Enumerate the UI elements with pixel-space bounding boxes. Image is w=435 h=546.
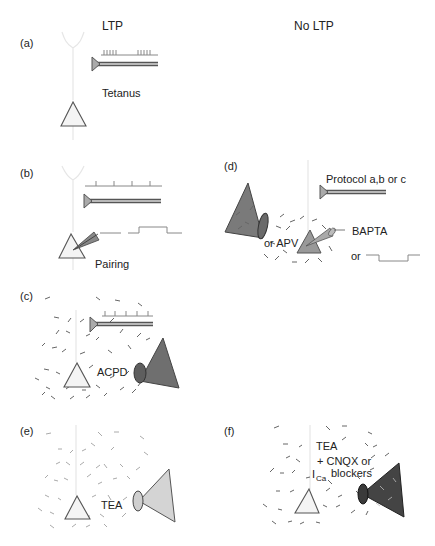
cnqx-label: + CNQX or — [317, 455, 371, 467]
svg-text:I: I — [312, 468, 315, 480]
stimulating-electrode-icon — [320, 185, 386, 199]
or-label: or — [351, 250, 361, 262]
hyperpolarization-step-trace — [366, 255, 420, 261]
tea-label: TEA — [316, 440, 338, 452]
panel-f-label: (f) — [224, 425, 234, 437]
panel-d: (d) or APV BAPTA or Protocol a,b or c — [224, 160, 420, 263]
stimulating-electrode-icon — [90, 317, 153, 332]
panel-b: (b) Pairing — [20, 166, 182, 270]
ltp-column-header: LTP — [102, 19, 123, 33]
pairing-label: Pairing — [95, 258, 129, 270]
panel-b-label: (b) — [20, 167, 33, 179]
tetanus-trace — [101, 50, 158, 55]
bapta-label: BAPTA — [352, 225, 388, 237]
panel-f: (f) TEA + CNQX or I Ca blockers — [224, 425, 404, 524]
neuron-soma-icon — [65, 496, 90, 519]
panel-a-label: (a) — [20, 37, 33, 49]
panel-d-label: (d) — [224, 160, 237, 172]
tea-label: TEA — [101, 499, 123, 511]
neuron-soma-icon — [64, 363, 90, 387]
acpd-label: ACPD — [97, 366, 128, 378]
panel-a: (a) Tetanus — [20, 32, 158, 140]
drug-molecules — [38, 432, 148, 528]
drug-puffer-dark-icon — [134, 338, 179, 388]
neuron-soma-icon — [295, 489, 319, 513]
protocol-label: Protocol a,b or c — [326, 173, 407, 185]
drug-puffer-dark-icon — [225, 183, 270, 240]
low-frequency-trace — [85, 181, 162, 186]
ica-blockers-label: I Ca blockers — [312, 467, 372, 483]
svg-text:Ca: Ca — [316, 474, 327, 483]
neuron-soma-icon — [61, 102, 86, 126]
depolarization-step-trace — [100, 227, 182, 233]
panel-e: (e) TEA — [20, 425, 175, 528]
panel-e-label: (e) — [20, 425, 33, 437]
apv-label: or APV — [264, 237, 299, 249]
stimulating-electrode-icon — [84, 194, 161, 208]
stimulating-electrode-icon — [92, 57, 158, 71]
tetanus-label: Tetanus — [102, 87, 141, 99]
ltp-figure: LTP No LTP (a) Tetanus (b) — [0, 0, 435, 546]
tetanus-trace — [102, 311, 153, 316]
recording-pipette-icon — [73, 232, 99, 250]
no-ltp-column-header: No LTP — [294, 19, 334, 33]
svg-text:blockers: blockers — [331, 467, 372, 479]
panel-c: (c) ACPD — [20, 290, 179, 399]
drug-puffer-light-icon — [133, 469, 175, 522]
panel-c-label: (c) — [20, 290, 33, 302]
drug-molecules — [35, 297, 150, 399]
